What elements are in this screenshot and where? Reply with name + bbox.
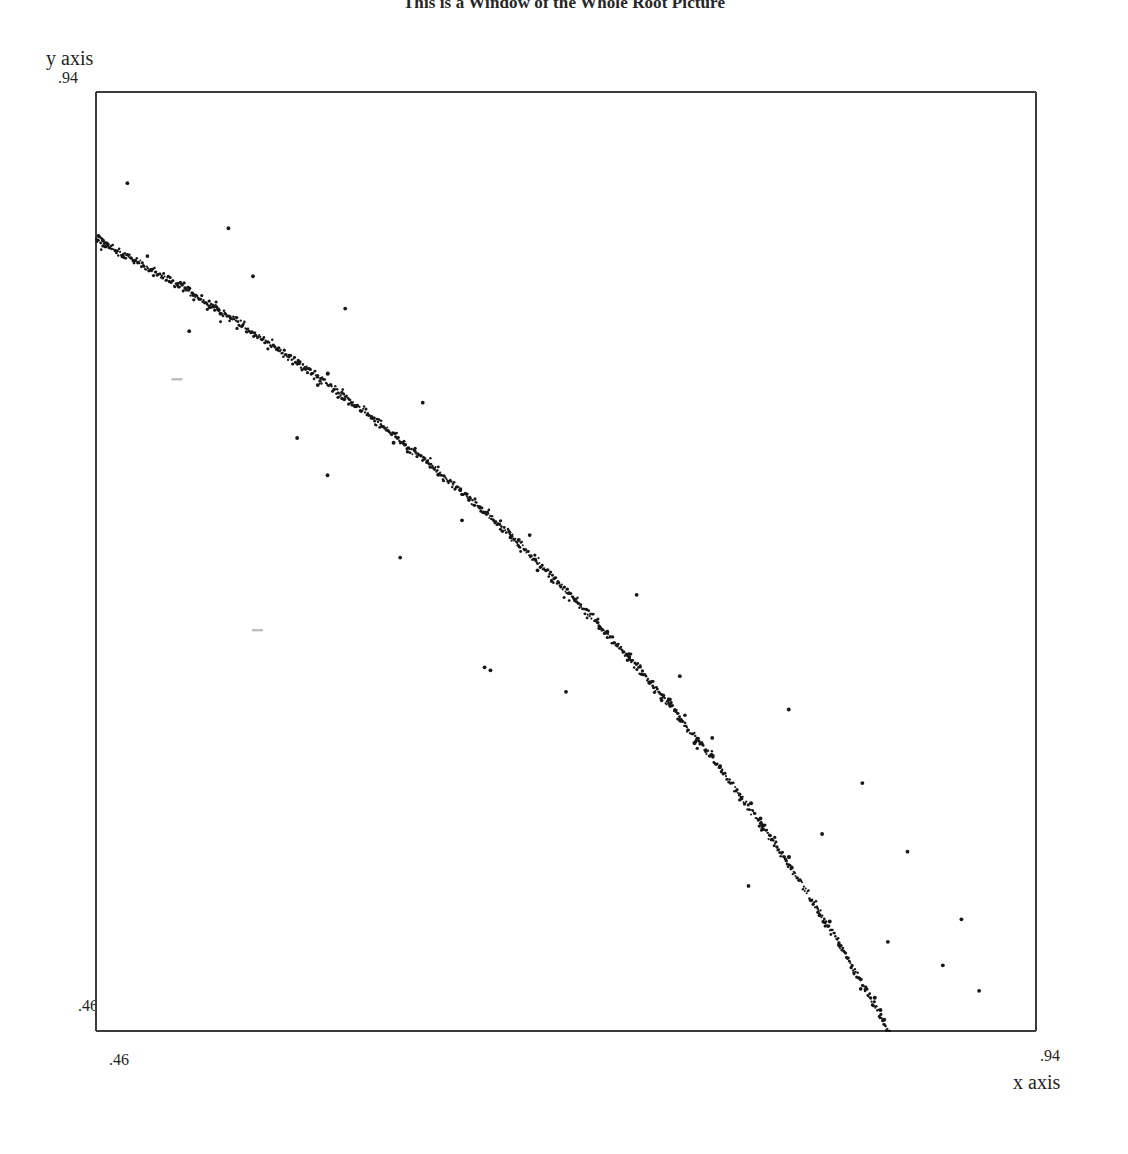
- data-point: [549, 570, 552, 573]
- data-point: [550, 580, 553, 583]
- data-point: [300, 366, 302, 368]
- data-point: [101, 244, 105, 248]
- data-point: [807, 889, 809, 891]
- data-point: [203, 299, 205, 301]
- data-point: [499, 519, 502, 522]
- data-point: [331, 385, 333, 387]
- data-point: [363, 405, 365, 407]
- data-point: [693, 732, 695, 734]
- data-point: [611, 635, 614, 638]
- data-point: [192, 298, 195, 301]
- data-point: [869, 996, 872, 999]
- data-point: [717, 762, 719, 764]
- data-point: [768, 838, 770, 840]
- data-point: [527, 550, 530, 553]
- data-point: [521, 541, 523, 543]
- data-point: [605, 630, 609, 634]
- data-point: [686, 726, 688, 728]
- data-point: [511, 540, 513, 542]
- data-point: [633, 666, 636, 669]
- data-point: [172, 279, 175, 282]
- data-point: [147, 267, 149, 269]
- data-point: [849, 966, 852, 969]
- data-point: [397, 436, 400, 439]
- data-point: [710, 736, 714, 740]
- data-point: [821, 914, 823, 916]
- data-point: [547, 575, 550, 578]
- data-point: [779, 855, 782, 858]
- data-point: [246, 331, 249, 334]
- data-point: [676, 712, 679, 715]
- data-point: [588, 615, 590, 617]
- data-point: [886, 1028, 888, 1030]
- data-point: [559, 585, 562, 588]
- data-point: [647, 678, 649, 680]
- data-point: [362, 408, 364, 410]
- data-point: [806, 892, 808, 894]
- data-point: [471, 499, 473, 501]
- data-point: [629, 652, 632, 655]
- data-point: [514, 538, 516, 540]
- data-point: [563, 596, 566, 599]
- data-point: [320, 377, 323, 380]
- data-point: [873, 1000, 876, 1003]
- data-point: [732, 782, 735, 785]
- data-point: [145, 269, 147, 271]
- data-point: [216, 307, 220, 311]
- data-point: [873, 996, 877, 1000]
- data-point: [370, 416, 374, 420]
- data-point: [645, 675, 648, 678]
- data-point: [536, 568, 540, 572]
- data-point: [639, 664, 642, 667]
- data-point: [215, 300, 218, 303]
- data-point: [766, 832, 768, 834]
- data-point: [632, 659, 634, 661]
- data-point: [837, 937, 840, 940]
- data-point: [271, 338, 274, 341]
- data-point: [579, 603, 582, 606]
- data-point: [318, 379, 322, 383]
- data-point: [380, 420, 383, 423]
- data-point: [847, 957, 850, 960]
- data-point: [349, 399, 351, 401]
- data-point: [541, 564, 544, 567]
- data-point: [805, 887, 807, 889]
- data-point: [136, 257, 138, 259]
- data-point: [222, 315, 225, 318]
- data-point: [519, 550, 522, 553]
- data-point: [827, 925, 830, 928]
- data-point: [828, 920, 832, 924]
- data-point: [347, 402, 350, 405]
- data-point: [580, 606, 582, 608]
- data-point: [227, 226, 231, 230]
- data-point: [749, 809, 751, 811]
- data-point: [483, 665, 487, 669]
- data-point: [408, 451, 411, 454]
- data-point: [353, 404, 357, 408]
- data-point: [738, 798, 741, 801]
- data-point: [106, 242, 110, 246]
- data-point: [662, 694, 666, 698]
- data-point: [537, 557, 539, 559]
- data-point: [98, 239, 100, 241]
- data-point: [411, 453, 413, 455]
- data-point: [820, 832, 824, 836]
- data-point: [652, 686, 655, 689]
- data-point: [358, 406, 360, 408]
- data-point: [459, 489, 462, 492]
- data-point: [635, 593, 639, 597]
- data-point: [187, 329, 191, 333]
- data-point: [793, 872, 796, 875]
- data-point: [977, 989, 981, 993]
- data-point: [829, 933, 832, 936]
- data-point: [566, 587, 569, 590]
- data-point: [538, 562, 540, 564]
- data-point: [506, 531, 508, 533]
- data-point: [765, 829, 768, 832]
- data-point: [326, 372, 330, 376]
- data-point: [152, 274, 155, 277]
- data-point: [654, 690, 656, 692]
- data-point: [617, 643, 620, 646]
- data-point: [287, 359, 289, 361]
- data-point: [266, 347, 269, 350]
